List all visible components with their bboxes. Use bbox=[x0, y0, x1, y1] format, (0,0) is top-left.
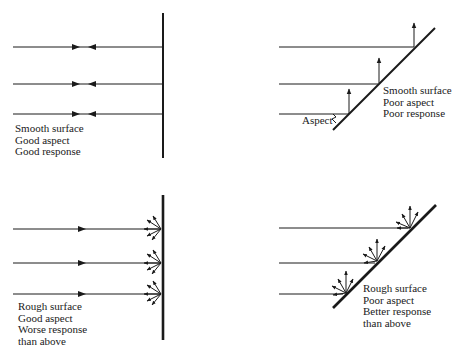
caption-line: Rough surface bbox=[363, 283, 431, 295]
caption-line: than above bbox=[18, 336, 87, 348]
caption-line: Smooth surface bbox=[383, 85, 452, 97]
caption-line: Better response bbox=[363, 306, 431, 318]
caption-line: Smooth surface bbox=[15, 123, 84, 135]
aspect-angle-label: Aspect bbox=[302, 115, 333, 127]
scattered-rays bbox=[144, 216, 161, 305]
ray-arrows bbox=[78, 226, 86, 297]
caption-line: Good response bbox=[15, 146, 84, 158]
caption-rough-good-aspect: Rough surface Good aspect Worse response… bbox=[18, 301, 87, 347]
caption-rough-poor-aspect: Rough surface Poor aspect Better respons… bbox=[363, 283, 431, 329]
aspect-angle-marker bbox=[332, 114, 336, 123]
caption-line: Poor response bbox=[383, 108, 452, 120]
incident-rays bbox=[13, 229, 160, 294]
caption-line: Worse response bbox=[18, 324, 87, 336]
incident-rays bbox=[13, 47, 163, 114]
caption-line: Rough surface bbox=[18, 301, 87, 313]
caption-smooth-poor-aspect: Smooth surface Poor aspect Poor response bbox=[383, 85, 452, 120]
caption-smooth-good-aspect: Smooth surface Good aspect Good response bbox=[15, 123, 84, 158]
ray-arrows bbox=[72, 44, 96, 117]
caption-line: than above bbox=[363, 318, 431, 330]
